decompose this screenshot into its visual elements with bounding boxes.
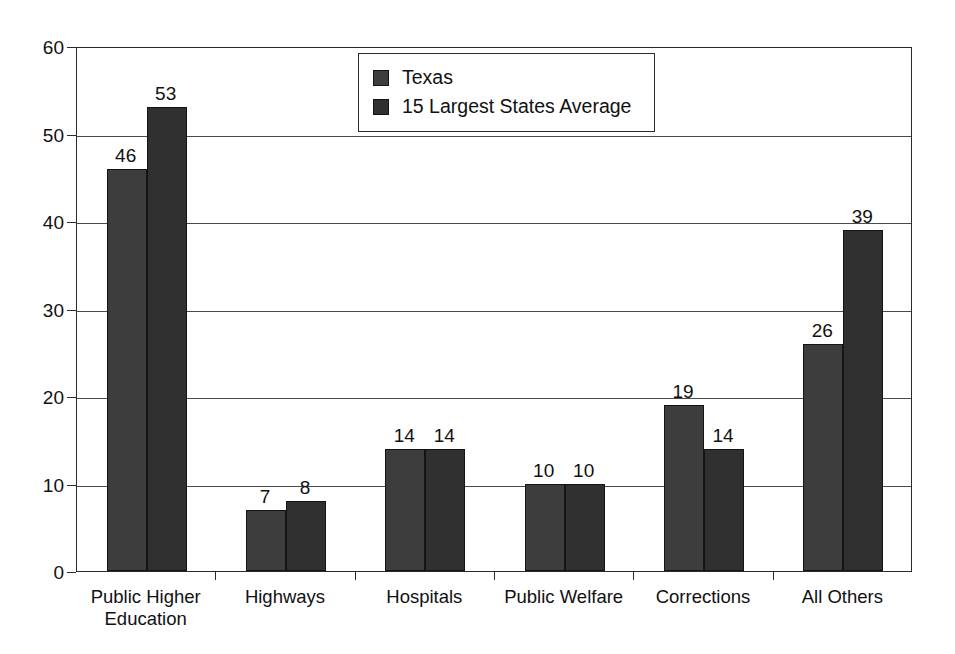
y-tick-label: 0	[20, 563, 64, 582]
bar	[525, 484, 565, 572]
bar-value-label: 46	[94, 146, 158, 165]
x-tick-mark	[773, 572, 774, 580]
x-tick-mark	[215, 572, 216, 580]
x-category-label: Public Welfare	[494, 586, 633, 608]
y-tick-mark	[67, 485, 76, 486]
gridline	[77, 136, 911, 137]
legend-entry: 15 Largest States Average	[373, 92, 640, 121]
y-tick-mark	[67, 572, 76, 573]
y-tick-label: 50	[20, 126, 64, 145]
bar-value-label: 39	[830, 207, 894, 226]
bar	[704, 449, 744, 572]
y-tick-mark	[67, 135, 76, 136]
y-tick-mark	[67, 47, 76, 48]
gridline	[77, 311, 911, 312]
legend-swatch-icon	[373, 70, 389, 86]
y-tick-label: 40	[20, 213, 64, 232]
y-tick-label: 30	[20, 301, 64, 320]
x-category-label: Hospitals	[355, 586, 494, 608]
bar-value-label: 53	[134, 84, 198, 103]
x-category-label: All Others	[773, 586, 912, 608]
bar	[803, 344, 843, 572]
y-tick-label: 10	[20, 476, 64, 495]
bar	[246, 510, 286, 571]
bar-value-label: 19	[651, 382, 715, 401]
bar-value-label: 14	[691, 426, 755, 445]
legend-entry-label: 15 Largest States Average	[402, 97, 631, 117]
bar	[425, 449, 465, 572]
y-tick-mark	[67, 222, 76, 223]
bar	[286, 501, 326, 571]
legend-swatch-icon	[373, 99, 389, 115]
bar	[107, 169, 147, 572]
y-tick-mark	[67, 397, 76, 398]
bar	[385, 449, 425, 572]
gridline	[77, 223, 911, 224]
bar-value-label: 10	[552, 461, 616, 480]
chart-figure: 0102030405060 Public Higher EducationHig…	[0, 0, 955, 654]
x-tick-mark	[355, 572, 356, 580]
legend-entry-label: Texas	[402, 68, 453, 88]
gridline	[77, 398, 911, 399]
bar-value-label: 26	[790, 321, 854, 340]
y-tick-label: 60	[20, 38, 64, 57]
x-category-label: Highways	[215, 586, 354, 608]
legend-entry: Texas	[373, 63, 640, 92]
x-tick-mark	[494, 572, 495, 580]
bar-value-label: 14	[412, 426, 476, 445]
x-category-label: Public Higher Education	[76, 586, 215, 630]
bar	[843, 230, 883, 571]
y-tick-label: 20	[20, 388, 64, 407]
bar	[565, 484, 605, 572]
y-tick-mark	[67, 310, 76, 311]
gridline	[77, 486, 911, 487]
bar-value-label: 8	[273, 478, 337, 497]
bar	[147, 107, 187, 571]
chart-legend: Texas 15 Largest States Average	[358, 53, 655, 132]
x-tick-mark	[633, 572, 634, 580]
x-category-label: Corrections	[633, 586, 772, 608]
